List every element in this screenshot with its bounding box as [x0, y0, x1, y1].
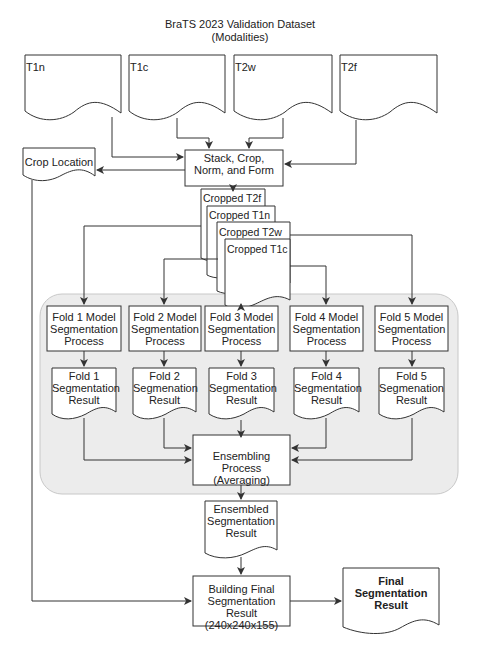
fold-2-process-line: Process: [129, 335, 201, 347]
fold-4-process-line: Process: [290, 335, 363, 347]
ensembled-line-1: Ensembled: [205, 503, 277, 515]
fold-2-process-label: Fold 2 Model Segmentation Process: [129, 311, 201, 347]
pipeline-diagram: BraTS 2023 Validation Dataset (Modalitie…: [0, 0, 478, 655]
fold-2-process-line: Fold 2 Model: [129, 311, 201, 323]
fold-5-result-line: Result: [379, 394, 444, 406]
fold-1-process-label: Fold 1 Model Segmentation Process: [47, 311, 121, 347]
fold-2-result-line: Segmenation: [133, 382, 196, 394]
final-result-line-2: Segmentation: [343, 587, 439, 599]
fold-4-process-label: Fold 4 Model Segmentation Process: [290, 311, 363, 347]
modality-label-t1c: T1c: [130, 61, 148, 73]
ensembling-label: Ensembling Process (Averaging): [193, 450, 290, 486]
modality-label-t1n: T1n: [26, 61, 45, 73]
fold-3-process-line: Process: [205, 335, 278, 347]
fold-3-process-line: Fold 3 Model: [205, 311, 278, 323]
ensembling-line-2: (Averaging): [193, 474, 290, 486]
title-line-2: (Modalities): [130, 31, 350, 44]
fold-1-result-line: Segmentation: [52, 382, 116, 394]
building-final-line-1: Building Final: [193, 583, 290, 595]
fold-4-process-line: Segmentation: [290, 323, 363, 335]
cropped-label-t2w: Cropped T2w: [219, 226, 282, 238]
diagram-title: BraTS 2023 Validation Dataset (Modalitie…: [130, 18, 350, 44]
fold-3-result-line: Fold 3: [209, 370, 274, 382]
fold-1-process-line: Fold 1 Model: [47, 311, 121, 323]
fold-4-result-label: Fold 4 Segmentation Result: [294, 370, 359, 406]
fold-3-result-line: Segmentation: [209, 382, 274, 394]
preprocess-line-1: Stack, Crop,: [185, 152, 283, 164]
fold-5-result-line: Fold 5: [379, 370, 444, 382]
fold-4-result-line: Fold 4: [294, 370, 359, 382]
ensembling-line-1: Ensembling Process: [193, 450, 290, 474]
preprocess-line-2: Norm, and Form: [185, 164, 283, 176]
ensembled-line-3: Result: [205, 527, 277, 539]
fold-1-result-line: Result: [52, 394, 116, 406]
final-result-label: Final Segmentation Result: [343, 575, 439, 611]
fold-4-process-line: Fold 4 Model: [290, 311, 363, 323]
fold-4-result-line: Result: [294, 394, 359, 406]
fold-3-process-line: Segmentation: [205, 323, 278, 335]
fold-2-process-line: Segmentation: [129, 323, 201, 335]
fold-5-process-line: Fold 5 Model: [375, 311, 448, 323]
fold-5-process-line: Segmentation: [375, 323, 448, 335]
fold-2-result-label: Fold 2 Segmenation Result: [133, 370, 196, 406]
fold-5-result-line: Segmenation: [379, 382, 444, 394]
fold-1-result-label: Fold 1 Segmentation Result: [52, 370, 116, 406]
fold-1-process-line: Segmentation: [47, 323, 121, 335]
preprocess-label: Stack, Crop, Norm, and Form: [185, 152, 283, 176]
title-line-1: BraTS 2023 Validation Dataset: [130, 18, 350, 31]
final-result-line-3: Result: [343, 599, 439, 611]
fold-5-process-label: Fold 5 Model Segmentation Process: [375, 311, 448, 347]
cropped-label-t1c: Cropped T1c: [227, 243, 288, 255]
fold-5-process-line: Process: [375, 335, 448, 347]
building-final-line-3: (240x240x155): [193, 619, 290, 631]
fold-4-result-line: Segmentation: [294, 382, 359, 394]
cropped-label-t1n: Cropped T1n: [209, 209, 270, 221]
cropped-label-t2f: Cropped T2f: [203, 192, 261, 204]
ensembled-line-2: Segmentation: [205, 515, 277, 527]
ensembled-result-label: Ensembled Segmentation Result: [205, 503, 277, 539]
building-final-label: Building Final Segmentation Result (240x…: [193, 583, 290, 631]
fold-1-process-line: Process: [47, 335, 121, 347]
fold-3-result-line: Result: [209, 394, 274, 406]
modality-label-t2f: T2f: [341, 61, 357, 73]
fold-1-result-line: Fold 1: [52, 370, 116, 382]
fold-3-process-label: Fold 3 Model Segmentation Process: [205, 311, 278, 347]
modality-label-t2w: T2w: [235, 61, 256, 73]
crop-location-label: Crop Location: [23, 156, 95, 168]
fold-2-result-line: Fold 2: [133, 370, 196, 382]
building-final-line-2: Segmentation Result: [193, 595, 290, 619]
final-result-line-1: Final: [343, 575, 439, 587]
fold-3-result-label: Fold 3 Segmentation Result: [209, 370, 274, 406]
fold-5-result-label: Fold 5 Segmenation Result: [379, 370, 444, 406]
fold-2-result-line: Result: [133, 394, 196, 406]
